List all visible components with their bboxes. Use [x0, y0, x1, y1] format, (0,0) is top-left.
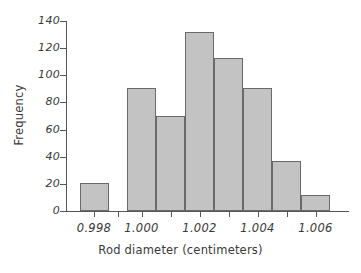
x-axis-tick-label: 1.006 — [286, 221, 346, 235]
y-axis-title: Frequency — [12, 55, 26, 175]
x-axis-tick — [200, 211, 201, 217]
x-axis-tick — [316, 211, 317, 217]
y-axis-tick — [60, 184, 67, 185]
histogram-bar — [185, 32, 214, 211]
y-axis-tick-label: 40 — [20, 150, 60, 163]
y-axis-tick-label: 0 — [20, 204, 60, 217]
y-axis-tick-label: 100 — [20, 68, 60, 81]
histogram-bar — [243, 88, 272, 212]
x-axis-tick-label: 1.004 — [228, 221, 288, 235]
x-axis-line — [66, 211, 349, 212]
x-axis-tick — [142, 211, 143, 217]
histogram-bar — [272, 161, 301, 211]
histogram-bar — [80, 183, 109, 212]
y-axis-tick — [60, 102, 67, 103]
x-axis-tick-label: 1.002 — [170, 221, 230, 235]
x-axis-tick-label: 1.000 — [112, 221, 172, 235]
y-axis-tick-label: 120 — [20, 41, 60, 54]
x-axis-tick — [94, 211, 95, 217]
y-axis-tick — [60, 211, 67, 212]
histogram-chart: 020406080100120140 0.9981.0001.0021.0041… — [0, 0, 361, 273]
y-axis-tick — [60, 48, 67, 49]
y-axis-tick-label: 20 — [20, 177, 60, 190]
y-axis-tick-label: 80 — [20, 95, 60, 108]
y-axis-tick-label: 60 — [20, 123, 60, 136]
x-axis-title: Rod diameter (centimeters) — [0, 243, 361, 257]
y-axis-tick — [60, 130, 67, 131]
y-axis-tick-label: 140 — [20, 14, 60, 27]
histogram-bar — [214, 58, 243, 211]
y-axis-tick — [60, 157, 67, 158]
histogram-bar — [301, 195, 330, 211]
y-axis-tick — [60, 21, 67, 22]
x-axis-tick — [171, 211, 172, 217]
x-axis-tick — [287, 211, 288, 217]
histogram-bar — [156, 116, 185, 211]
x-axis-tick — [258, 211, 259, 217]
x-axis-tick — [229, 211, 230, 217]
y-axis-tick — [60, 75, 67, 76]
x-axis-tick — [118, 211, 119, 217]
histogram-bar — [127, 88, 156, 212]
